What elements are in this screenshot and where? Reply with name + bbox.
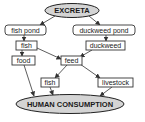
node-human-consumption: HUMAN CONSUMPTION <box>16 95 124 114</box>
node-human-consumption-label: HUMAN CONSUMPTION <box>27 100 113 109</box>
node-duckweed-label: duckweed <box>90 42 122 49</box>
excreta-flow-diagram: EXCRETA fish pond duckweed pond fish duc… <box>0 0 145 122</box>
node-excreta: EXCRETA <box>45 4 99 18</box>
node-duckweed-pond-label: duckweed pond <box>79 27 128 35</box>
edge-feed-livestock <box>80 64 100 78</box>
node-fish-top-label: fish <box>21 42 32 49</box>
edge-livestock-human <box>100 87 112 96</box>
edge-fish-human <box>50 87 53 95</box>
edge-excreta-fishpond <box>40 16 55 25</box>
node-fish-bottom: fish <box>41 78 59 87</box>
node-fish-top: fish <box>16 41 37 50</box>
node-livestock-label: livestock <box>102 79 129 86</box>
edge-excreta-duckweedpond <box>89 16 100 25</box>
edge-feed-fish <box>55 65 67 78</box>
node-duckweed-pond: duckweed pond <box>73 25 135 35</box>
node-excreta-label: EXCRETA <box>54 6 90 15</box>
node-fish-bottom-label: fish <box>45 79 56 86</box>
edge-fish-feed <box>37 48 61 59</box>
node-feed: feed <box>61 56 82 65</box>
node-fish-pond-label: fish pond <box>11 27 40 35</box>
node-food: food <box>12 56 35 65</box>
node-fish-pond: fish pond <box>5 25 46 35</box>
node-duckweed: duckweed <box>86 41 125 50</box>
edge-food-human <box>24 65 34 96</box>
node-livestock: livestock <box>98 78 133 87</box>
node-feed-label: feed <box>65 57 79 64</box>
node-food-label: food <box>17 57 31 64</box>
